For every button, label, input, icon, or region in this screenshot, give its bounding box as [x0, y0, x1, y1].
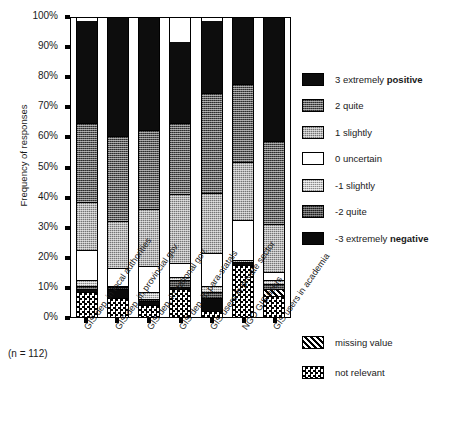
cropped-title [60, 0, 310, 12]
legend-label: 0 uncertain [335, 153, 382, 164]
legend-label: 2 quite [335, 100, 364, 111]
legend-swatch-icon [302, 179, 324, 192]
legend-item[interactable]: -2 quite [302, 199, 452, 226]
legend-swatch-icon [302, 232, 324, 245]
legend-item[interactable]: -1 slightly [302, 172, 452, 199]
y-tick-label: 20% [38, 251, 58, 262]
legend-label: missing value [335, 337, 393, 348]
stacked-bar[interactable] [263, 18, 285, 317]
legend-label: 3 extremely positive [335, 74, 423, 85]
legend-extra: missing valuenot relevant [302, 327, 452, 387]
bar-slot [71, 18, 102, 317]
legend-item[interactable]: missing value [302, 327, 452, 357]
legend-label: -1 slightly [335, 180, 375, 191]
y-tick-label: 10% [38, 281, 58, 292]
legend-item[interactable]: -3 extremely negative [302, 225, 452, 252]
bar-segment [202, 21, 222, 93]
bar-segment [170, 42, 190, 123]
bar-segment [139, 18, 159, 130]
y-tick-label: 30% [38, 221, 58, 232]
bar-segment [77, 250, 97, 280]
legend-label: not relevant [335, 367, 385, 378]
legend-item[interactable]: 3 extremely positive [302, 66, 452, 93]
bar-segment [108, 221, 128, 267]
bar-segment [108, 136, 128, 221]
legend-main: 3 extremely positive2 quite1 slightly0 u… [302, 66, 452, 252]
y-tick-label: 100% [32, 10, 58, 21]
bar-segment [77, 123, 97, 202]
y-tick-label: 60% [38, 130, 58, 141]
legend-swatch-icon [302, 99, 324, 112]
bar-segment [264, 18, 284, 141]
plot-area [70, 17, 291, 318]
stacked-bar[interactable] [76, 18, 98, 317]
bar-segment [202, 93, 222, 193]
bar-slot [259, 18, 290, 317]
legend-item[interactable]: 2 quite [302, 93, 452, 120]
legend-swatch-icon [302, 366, 324, 379]
y-tick-label: 50% [38, 161, 58, 172]
bar-segment [233, 162, 253, 220]
legend-label: -2 quite [335, 206, 367, 217]
y-tick-label: 70% [38, 100, 58, 111]
legend-label: 1 slightly [335, 127, 372, 138]
legend-item[interactable]: 1 slightly [302, 119, 452, 146]
bar-segment [139, 130, 159, 209]
legend-swatch-icon [302, 126, 324, 139]
bar-segment [77, 21, 97, 123]
bar-segment [170, 123, 190, 195]
bar-segment [108, 18, 128, 136]
y-axis: 100%90%80%70%60%50%40%30%20%10%0% [0, 17, 70, 318]
bar-segment [264, 141, 284, 225]
chart-root: Frequency of responses 100%90%80%70%60%5… [0, 0, 452, 439]
y-tick-label: 90% [38, 40, 58, 51]
bar-segment [233, 84, 253, 162]
legend-swatch-icon [302, 205, 324, 218]
y-tick-label: 80% [38, 70, 58, 81]
bar-segment [233, 18, 253, 84]
sample-size-note: (n = 112) [8, 348, 48, 359]
legend-swatch-icon [302, 73, 324, 86]
legend-item[interactable]: 0 uncertain [302, 146, 452, 173]
y-tick-label: 40% [38, 191, 58, 202]
legend-label: -3 extremely negative [335, 233, 428, 244]
legend-swatch-icon [302, 336, 324, 349]
bar-segment [202, 193, 222, 253]
legend-swatch-icon [302, 152, 324, 165]
legend-item[interactable]: not relevant [302, 357, 452, 387]
bar-segment [77, 202, 97, 250]
